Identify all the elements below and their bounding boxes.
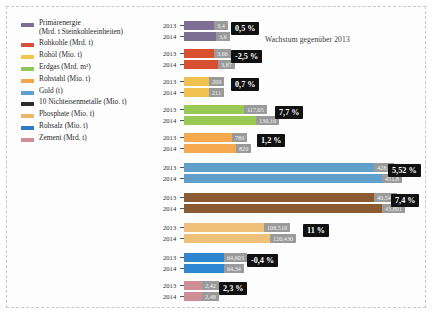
- bar-chart-plot-area: 20133,420143,60,5 %20133,6620143,87-2,5 …: [163, 21, 425, 303]
- bar-year-label: 2014: [163, 144, 180, 153]
- bar: 117,05: [184, 105, 244, 114]
- bar: 64,603: [184, 253, 224, 262]
- bar-row: 20132,42: [163, 281, 425, 290]
- bar-group: 20133,420143,60,5 %: [163, 21, 425, 42]
- growth-badge: 7,4 %: [391, 194, 419, 207]
- growth-badge: 0,7 %: [231, 78, 259, 91]
- growth-badge: 0,5 %: [231, 22, 259, 35]
- bar-value-label: 209: [209, 77, 224, 86]
- bar: 64,34: [184, 264, 224, 273]
- bar-year-label: 2013: [163, 21, 180, 30]
- bar: 2,42: [184, 281, 202, 290]
- bar-value-label: 820: [236, 144, 251, 153]
- legend-item: Zement (Mrd. t): [21, 134, 161, 143]
- bar-value-label: 2,48: [202, 292, 219, 301]
- legend-item: Rohsalz (Mio. t): [21, 122, 161, 131]
- bar-group: 201378020148201,2 %: [163, 133, 425, 154]
- bar-row: 2013428,3: [163, 163, 425, 172]
- legend-item-label: 10 Nichteisenmetalle (Mio. t): [39, 98, 126, 107]
- bar-row: 2014211: [163, 88, 425, 97]
- chart-legend: Primärenergie (Mrd. t Steinkohleeinheite…: [21, 19, 161, 145]
- bar-row: 2013108,510: [163, 223, 425, 232]
- legend-item-label: Rohöl (Mio. t): [39, 51, 82, 60]
- bar-group: 2013117,052014130,167,7 %: [163, 105, 425, 126]
- bar-value-label: 64,603: [224, 253, 247, 262]
- bar-row: 2014120,430: [163, 234, 425, 243]
- bar: 108,510: [184, 223, 264, 232]
- bar-year-label: 2013: [163, 77, 180, 86]
- bar-row: 201464,34: [163, 264, 425, 273]
- bar-year-label: 2014: [163, 88, 180, 97]
- bar: 820: [184, 144, 236, 153]
- legend-color-swatch-icon: [21, 67, 34, 71]
- bar-group: 201320920142110,7 %: [163, 77, 425, 98]
- bar: 780: [184, 133, 232, 142]
- bar-row: 201364,603: [163, 253, 425, 262]
- bar: 428,3: [184, 163, 374, 172]
- growth-badge: 11 %: [303, 224, 329, 237]
- bar-value-label: 3,6: [216, 32, 230, 41]
- bar-year-label: 2014: [163, 174, 180, 183]
- bar: 3,6: [184, 32, 216, 41]
- bar: 209: [184, 77, 209, 86]
- legend-item-label: Zement (Mrd. t): [39, 134, 87, 143]
- bar: 120,430: [184, 234, 270, 243]
- bar: 130,16: [184, 116, 256, 125]
- bar-row: 2014820: [163, 144, 425, 153]
- legend-color-swatch-icon: [21, 79, 34, 83]
- bar: 43,801: [184, 204, 382, 213]
- bar-group: 20133,6620143,87-2,5 %: [163, 49, 425, 70]
- legend-item: Rohkohle (Mrd. t): [21, 39, 161, 48]
- bar-value-label: 3,66: [214, 49, 231, 58]
- bar-year-label: 2014: [163, 234, 180, 243]
- bar: 451,8: [184, 174, 382, 183]
- legend-item: Primärenergie (Mrd. t Steinkohleeinheite…: [21, 19, 161, 36]
- bar-row: 20142,48: [163, 292, 425, 301]
- bar-row: 2014451,8: [163, 174, 425, 183]
- bar-value-label: 64,34: [224, 264, 244, 273]
- bar-value-label: 780: [232, 133, 247, 142]
- legend-item: Erdgas (Mrd. m³): [21, 63, 161, 72]
- bar-group: 2013428,32014451,85,52 %: [163, 163, 425, 184]
- bar-group: 2013108,5102014120,43011 %: [163, 223, 425, 244]
- bar-value-label: 2,42: [202, 281, 219, 290]
- bar-year-label: 2013: [163, 133, 180, 142]
- bar-year-label: 2014: [163, 32, 180, 41]
- bar-value-label: 3,4: [214, 21, 228, 30]
- bar: 3,87: [184, 60, 218, 69]
- legend-item: Phosphate (Mio. t): [21, 110, 161, 119]
- legend-color-swatch-icon: [21, 55, 34, 59]
- bar-group: 201364,603201464,34-0,4 %: [163, 253, 425, 274]
- growth-badge: -0,4 %: [247, 254, 278, 267]
- legend-color-swatch-icon: [21, 126, 34, 130]
- growth-badge: 5,52 %: [388, 164, 421, 177]
- legend-item-label: Gold (t): [39, 87, 63, 96]
- bar-value-label: 108,510: [264, 223, 290, 232]
- bar-value-label: 117,05: [244, 105, 267, 114]
- bar-row: 2013209: [163, 77, 425, 86]
- legend-item-label: Rohkohle (Mrd. t): [39, 39, 93, 48]
- legend-color-swatch-icon: [21, 43, 34, 47]
- legend-item: Rohstahl (Mio. t): [21, 75, 161, 84]
- legend-item-label: Rohsalz (Mio. t): [39, 122, 88, 131]
- bar-row: 20133,66: [163, 49, 425, 58]
- bar-year-label: 2014: [163, 60, 180, 69]
- bar-year-label: 2013: [163, 281, 180, 290]
- legend-color-swatch-icon: [21, 91, 34, 95]
- legend-item-label: Primärenergie (Mrd. t Steinkohleeinheite…: [39, 19, 123, 36]
- legend-color-swatch-icon: [21, 23, 34, 27]
- bar-year-label: 2014: [163, 116, 180, 125]
- bar-row: 201340,549: [163, 193, 425, 202]
- bar: 3,66: [184, 49, 214, 58]
- bar-row: 2013780: [163, 133, 425, 142]
- growth-badge: 1,2 %: [257, 134, 285, 147]
- bar-value-label: 120,430: [270, 234, 296, 243]
- bar-row: 20143,6: [163, 32, 425, 41]
- bar-year-label: 2013: [163, 163, 180, 172]
- growth-badge: -2,5 %: [231, 50, 262, 63]
- bar-row: 20133,4: [163, 21, 425, 30]
- bar: 3,4: [184, 21, 214, 30]
- bar-value-label: 211: [209, 88, 224, 97]
- bar-year-label: 2014: [163, 292, 180, 301]
- growth-badge: 7,7 %: [275, 106, 303, 119]
